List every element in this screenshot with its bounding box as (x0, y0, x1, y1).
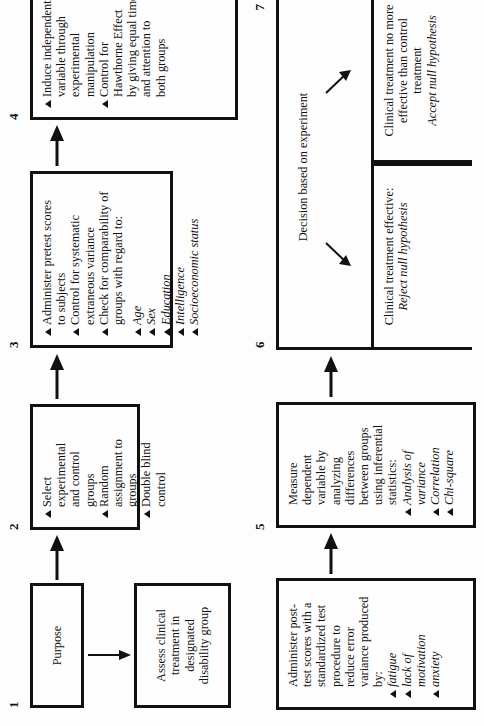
step2-item-3: Double blind control (139, 416, 167, 518)
step5-item-1-line-3: standardized test (314, 590, 328, 687)
step3-subitem-intelligence-label: Intelligence (173, 183, 187, 325)
box-step-7[interactable]: Decision based on experiment Clinical tr… (276, 0, 472, 350)
box-step-5[interactable]: Administer post- test scores with a stan… (276, 578, 476, 710)
step3-subitem-age-label: Age (130, 183, 144, 325)
arrow-step6-to-step7 (322, 355, 340, 397)
step6-item-1-line-5: differences (343, 414, 357, 505)
box-step-6[interactable]: Measure dependent variable by analyzing … (276, 402, 476, 528)
flowchart-stage: 1 Purpose Assess clinical treatment in d… (0, 0, 484, 726)
step6-subitem-variance-label: variance (414, 414, 428, 505)
assess-line-2: treatment in (168, 616, 182, 675)
step5-item-1-line-4: procedure to (329, 590, 343, 687)
decision-heading-wrap: Decision based on experiment (293, 0, 311, 347)
step6-subitem-chi-square: Chi-square (442, 414, 456, 516)
step3-item-1: Administer pretest scores to subjects (40, 183, 68, 336)
assess-line-3: designated (183, 619, 197, 672)
box-step-2-inner: Select experimental and control groups R… (33, 407, 137, 527)
box-branch-reject-null[interactable]: Clinical treatment effective: Reject nul… (371, 163, 472, 347)
step2-item-1-line-3: and control (68, 416, 82, 507)
step6-item-1-line-3: variable by (314, 414, 328, 505)
arrow-step3-to-step4 (48, 124, 66, 166)
step3-subitem-ses: Socioeconomic status (187, 183, 201, 336)
step2-item-2: Random assignment to groups (97, 416, 140, 518)
branch-accept-line-2: effective than control (396, 0, 410, 154)
step2-item-2-line-3: groups (125, 416, 139, 507)
step3-item-1-line-2: to subjects (54, 183, 68, 325)
box-step-5-inner: Administer post- test scores with a stan… (279, 581, 473, 707)
step5-item-1-line-2: test scores with a (300, 590, 314, 687)
step4-item-2-line-2: Hawthorne Effect (111, 0, 125, 97)
step4-item-2-line-5: both groups (154, 0, 168, 97)
step6-subitem-analysis-of-label: Analysis of (400, 414, 414, 505)
decision-heading: Decision based on experiment (296, 93, 310, 242)
box-step-4-inner: Induce independent variable through expe… (33, 0, 235, 117)
step4-item-1-line-1: Induce independent (40, 0, 54, 97)
step-number-3: 3 (6, 342, 22, 349)
step5-item-1-line-6: variance produced (357, 590, 371, 687)
step3-item-3-line-1: Check for comparability of (97, 183, 111, 325)
purpose-label: Purpose (50, 626, 64, 666)
box-assess-inner: Assess clinical treatment in designated … (137, 586, 228, 705)
branch-accept-inner: Clinical treatment no more effective tha… (374, 0, 472, 160)
box-step-3-inner: Administer pretest scores to subjects Co… (33, 174, 170, 345)
step-number-2: 2 (6, 524, 22, 531)
step4-item-1-line-4: manipulation (83, 0, 97, 97)
arrow-step5-to-step6 (322, 532, 340, 574)
box-step-4[interactable]: Induce independent variable through expe… (30, 0, 238, 120)
step5-item-1-line-1: Administer post- (286, 590, 300, 687)
step3-subitem-sex: Sex (144, 183, 158, 336)
step-number-7: 7 (252, 4, 268, 11)
step2-item-3-line-2: control (154, 416, 168, 507)
step3-subitem-age: Age (130, 183, 144, 336)
step6-subitem-correlation: Correlation (428, 414, 442, 516)
step5-item-1: Administer post- test scores with a stan… (286, 590, 385, 698)
step4-item-2-line-1: Control for (97, 0, 111, 97)
step3-item-3-line-2: groups with regard to: (111, 183, 125, 325)
step6-item-1: Measure dependent variable by analyzing … (286, 414, 400, 516)
assess-line-1: Assess clinical (154, 609, 168, 682)
step3-subitem-intelligence: Intelligence (173, 183, 187, 336)
box-assess-clinical[interactable]: Assess clinical treatment in designated … (134, 583, 231, 708)
step2-item-1-line-2: experimental (54, 416, 68, 507)
step-number-1: 1 (6, 702, 22, 709)
step3-subitem-education: Education (159, 183, 173, 336)
branch-reject-line-1: Clinical treatment effective: (382, 172, 396, 341)
branch-accept-line-3: treatment (410, 0, 424, 154)
step6-subitem-analysis-of-variance: Analysis of variance (400, 414, 428, 516)
step-number-6: 6 (252, 342, 268, 349)
branch-reject-emphasis: Reject null hypothesis (396, 172, 410, 341)
step2-item-3-line-1: Double blind (139, 416, 153, 507)
flowchart-rotated-wrapper: 1 Purpose Assess clinical treatment in d… (0, 0, 484, 726)
step4-item-2-line-3: by giving equal time (125, 0, 139, 97)
step3-subitem-ses-label: Socioeconomic status (187, 183, 201, 325)
branch-accept-emphasis: Accept null hypothesis (425, 0, 439, 154)
box-step-3[interactable]: Administer pretest scores to subjects Co… (30, 171, 173, 348)
step4-item-2: Control for Hawthorne Effect by giving e… (97, 0, 168, 108)
box-purpose-inner: Purpose (33, 586, 81, 705)
step6-item-1-line-1: Measure (286, 414, 300, 505)
arrow-decision-to-left-branch (323, 239, 353, 269)
step4-item-1-line-2: variable through (54, 0, 68, 97)
step4-item-1: Induce independent variable through expe… (40, 0, 97, 108)
box-purpose[interactable]: Purpose (30, 583, 84, 708)
step3-item-1-line-1: Administer pretest scores (40, 183, 54, 325)
arrow-decision-to-right-branch (323, 67, 353, 97)
step5-subitem-lack-of-motivation: lack of motivation (400, 590, 428, 698)
assess-line-4: disability group (197, 607, 211, 685)
step4-item-2-line-4: and attention to (139, 0, 153, 97)
step6-item-1-line-6: between groups (357, 414, 371, 505)
box-branch-accept-null[interactable]: Clinical treatment no more effective tha… (371, 0, 472, 163)
step6-item-1-line-7: using inferential (371, 414, 385, 505)
step3-item-3: Check for comparability of groups with r… (97, 183, 125, 336)
box-step-2[interactable]: Select experimental and control groups R… (30, 404, 140, 530)
step-number-4: 4 (6, 114, 22, 121)
step-number-5: 5 (252, 524, 268, 531)
arrow-purpose-to-assess (88, 646, 132, 664)
step2-item-2-line-1: Random (97, 416, 111, 507)
step6-item-1-line-8: statistics: (385, 414, 399, 505)
step5-subitem-lack-of-label: lack of (400, 590, 414, 687)
arrow-purpose-to-step2 (48, 534, 66, 580)
step5-item-1-line-7: by: (371, 590, 385, 687)
step5-subitem-fatigue: fatigue (385, 590, 399, 698)
branch-reject-inner: Clinical treatment effective: Reject nul… (374, 166, 472, 347)
